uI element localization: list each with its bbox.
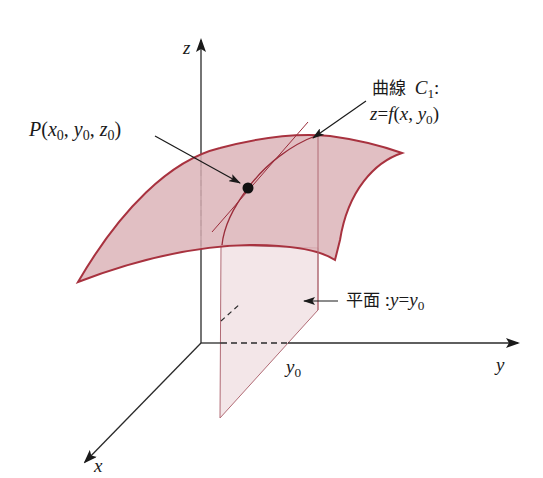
curve-c1-equation: z=f(x, y0) xyxy=(370,104,439,126)
point-p xyxy=(243,183,254,194)
plane-label: 平面 :y=y0 xyxy=(346,290,424,312)
curve-c1-label: 曲線 C1: xyxy=(372,78,439,100)
x-axis-label: x xyxy=(94,456,102,475)
x-axis xyxy=(85,343,201,462)
y-axis-label: y xyxy=(496,355,504,374)
point-p-label: P(x0, y0, z0) xyxy=(29,119,121,143)
y0-tick-label: y0 xyxy=(286,357,301,379)
curve-c1-leader-arrow xyxy=(313,101,366,138)
diagram-canvas xyxy=(0,0,543,478)
z-axis-label: z xyxy=(183,38,190,57)
plane-y-equals-y0 xyxy=(220,245,318,418)
